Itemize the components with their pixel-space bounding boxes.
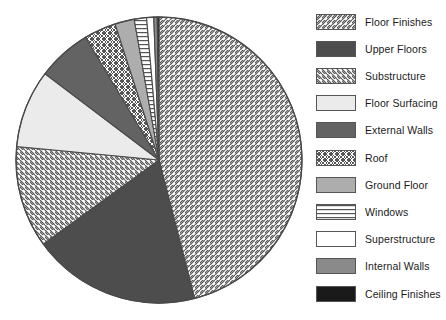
pie-svg: [0, 0, 312, 320]
legend-item[interactable]: Upper Floors: [316, 38, 427, 60]
pie-plot-area: [0, 0, 312, 320]
legend-item[interactable]: External Walls: [316, 119, 433, 141]
legend-item[interactable]: Substructure: [316, 65, 426, 87]
legend-swatch: [316, 95, 356, 111]
legend-item-label: Floor Finishes: [365, 16, 432, 28]
legend-item[interactable]: Roof: [316, 147, 388, 169]
pie-chart-figure: Floor FinishesUpper FloorsSubstructureFl…: [0, 0, 446, 320]
legend-swatch: [316, 258, 356, 274]
legend-swatch: [316, 41, 356, 57]
legend-item-label: Internal Walls: [365, 260, 430, 272]
legend-swatch: [316, 231, 356, 247]
legend-swatch: [316, 150, 356, 166]
legend-swatch-pattern: [317, 205, 356, 220]
legend-item-label: Upper Floors: [365, 43, 427, 55]
legend-item-label: Windows: [365, 206, 408, 218]
legend-swatch-pattern: [317, 15, 356, 30]
legend-item[interactable]: Superstructure: [316, 228, 435, 250]
legend-item-label: Substructure: [365, 70, 426, 82]
legend-item-label: Roof: [365, 152, 388, 164]
legend-item[interactable]: Windows: [316, 201, 408, 223]
legend-item-label: External Walls: [365, 124, 433, 136]
legend-item[interactable]: Floor Surfacing: [316, 92, 438, 114]
legend-swatch-pattern: [317, 151, 356, 166]
legend-item-label: Superstructure: [365, 233, 435, 245]
legend-item-label: Ceiling Finishes: [365, 288, 441, 300]
legend-swatch: [316, 122, 356, 138]
legend-item[interactable]: Floor Finishes: [316, 11, 432, 33]
legend-swatch: [316, 68, 356, 84]
legend-item-label: Ground Floor: [365, 179, 428, 191]
legend-item-label: Floor Surfacing: [365, 97, 438, 109]
legend-swatch: [316, 177, 356, 193]
chart-legend: Floor FinishesUpper FloorsSubstructureFl…: [312, 0, 446, 320]
pie-slice-group: [16, 17, 302, 303]
legend-item[interactable]: Internal Walls: [316, 255, 430, 277]
legend-item[interactable]: Ground Floor: [316, 174, 428, 196]
legend-swatch: [316, 204, 356, 220]
legend-swatch: [316, 286, 356, 302]
legend-item[interactable]: Ceiling Finishes: [316, 283, 441, 305]
legend-swatch-pattern: [317, 69, 356, 84]
legend-swatch: [316, 14, 356, 30]
